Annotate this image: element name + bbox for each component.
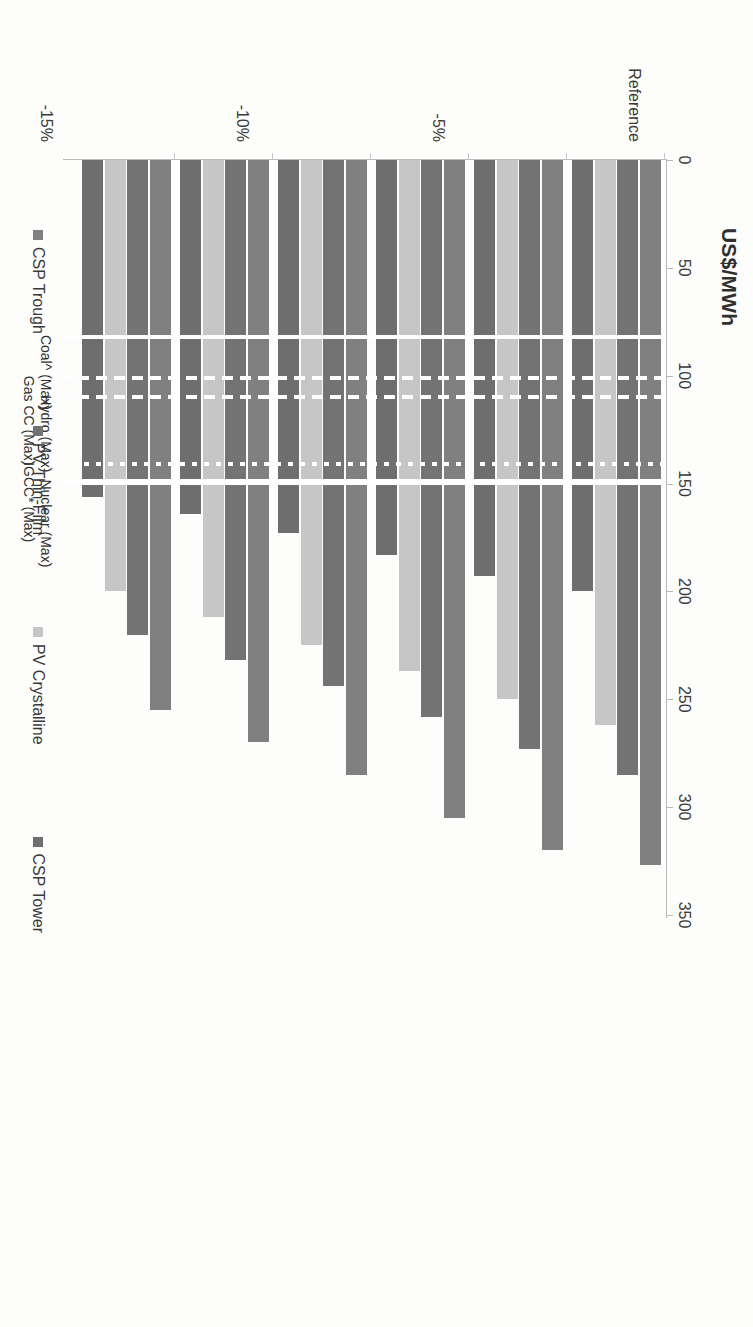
legend-label: PV Thin-Film bbox=[29, 443, 47, 535]
legend-item[interactable]: PV Crystalline bbox=[29, 627, 47, 744]
bar[interactable] bbox=[422, 160, 443, 717]
bar[interactable] bbox=[346, 160, 367, 775]
legend-swatch-icon bbox=[33, 426, 43, 436]
value-axis-tick-labels: 050100150200250300350 bbox=[663, 160, 693, 920]
value-axis-tick-mark bbox=[666, 807, 673, 808]
bar[interactable] bbox=[542, 160, 563, 850]
category-axis-tick-mark bbox=[174, 153, 175, 160]
category-axis-tick-mark bbox=[468, 153, 469, 160]
reference-line bbox=[65, 479, 665, 485]
category-axis-tick-mark bbox=[566, 153, 567, 160]
reference-line bbox=[65, 395, 665, 399]
category-axis-label: -15% bbox=[37, 105, 55, 142]
legend-label: CSP Trough bbox=[29, 247, 47, 334]
bar[interactable] bbox=[640, 160, 661, 865]
value-axis-tick-mark bbox=[666, 699, 673, 700]
bar-group: -25% bbox=[73, 0, 171, 1327]
value-axis-line bbox=[666, 160, 667, 918]
legend: CSP TroughPV Thin-FilmPV CrystallineCSP … bbox=[29, 230, 47, 933]
value-axis-tick-label: 0 bbox=[675, 156, 693, 165]
bar[interactable] bbox=[83, 160, 104, 497]
legend-swatch-icon bbox=[33, 837, 43, 847]
legend-label: CSP Tower bbox=[29, 854, 47, 933]
bar[interactable] bbox=[475, 160, 496, 576]
value-axis-tick-mark bbox=[666, 915, 673, 916]
value-axis-tick-mark bbox=[666, 160, 673, 161]
value-axis-title: US$/MWh bbox=[717, 228, 741, 326]
reference-line bbox=[65, 335, 665, 339]
bar-group: -15% bbox=[269, 0, 367, 1327]
value-axis-tick-label: 50 bbox=[675, 259, 693, 277]
legend-item[interactable]: CSP Trough bbox=[29, 230, 47, 334]
bar[interactable] bbox=[399, 160, 420, 671]
reference-line bbox=[65, 376, 665, 380]
bar[interactable] bbox=[248, 160, 269, 742]
bar[interactable] bbox=[279, 160, 300, 533]
legend-item[interactable]: CSP Tower bbox=[29, 837, 47, 933]
value-axis-tick-label: 250 bbox=[675, 686, 693, 713]
category-axis-label: Reference bbox=[625, 68, 643, 142]
legend-swatch-icon bbox=[33, 627, 43, 637]
chart-canvas: US$/MWh 050100150200250300350 Reference-… bbox=[0, 0, 753, 1327]
value-axis-tick-mark bbox=[666, 376, 673, 377]
bar-group: -10% bbox=[367, 0, 465, 1327]
value-axis-tick-label: 300 bbox=[675, 794, 693, 821]
reference-line bbox=[65, 462, 665, 466]
bar[interactable] bbox=[618, 160, 639, 775]
bar[interactable] bbox=[203, 160, 224, 617]
value-axis-tick-label: 350 bbox=[675, 902, 693, 929]
legend-label: PV Crystalline bbox=[29, 644, 47, 744]
bar[interactable] bbox=[301, 160, 322, 645]
bar-group: Reference bbox=[563, 0, 661, 1327]
bar[interactable] bbox=[324, 160, 345, 686]
value-axis-tick-mark bbox=[666, 591, 673, 592]
bar-group: -20% bbox=[171, 0, 269, 1327]
category-axis-tick-mark bbox=[370, 153, 371, 160]
legend-item[interactable]: PV Thin-Film bbox=[29, 426, 47, 535]
bar[interactable] bbox=[444, 160, 465, 818]
value-axis-tick-mark bbox=[666, 484, 673, 485]
category-axis-tick-mark bbox=[664, 153, 665, 160]
rotated-chart-stage: US$/MWh 050100150200250300350 Reference-… bbox=[0, 0, 753, 1327]
value-axis-tick-label: 200 bbox=[675, 578, 693, 605]
value-axis-tick-mark bbox=[666, 268, 673, 269]
bar-group: -5% bbox=[465, 0, 563, 1327]
category-axis-tick-mark bbox=[272, 153, 273, 160]
bar[interactable] bbox=[520, 160, 541, 749]
bar[interactable] bbox=[150, 160, 171, 710]
value-axis-tick-label: 150 bbox=[675, 470, 693, 497]
bar[interactable] bbox=[497, 160, 518, 699]
legend-swatch-icon bbox=[33, 230, 43, 240]
bar[interactable] bbox=[226, 160, 247, 660]
bar[interactable] bbox=[377, 160, 398, 555]
bar[interactable] bbox=[595, 160, 616, 725]
value-axis-tick-label: 100 bbox=[675, 362, 693, 389]
